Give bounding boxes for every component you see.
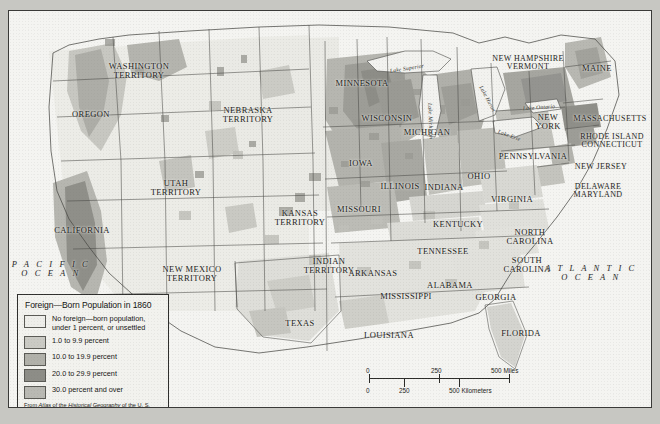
scale-miles-tick-250: 250 xyxy=(431,367,442,374)
legend-swatch-3 xyxy=(24,369,46,382)
scale-km-tick-0: 0 xyxy=(366,387,370,394)
map-legend[interactable]: Foreign—Born Population in 1860 No forei… xyxy=(17,294,169,407)
scale-tick-b xyxy=(439,374,440,383)
legend-row-2[interactable]: 10.0 to 19.9 percent xyxy=(24,352,162,366)
map-surface[interactable]: WASHINGTON TERRITORY OREGON CALIFORNIA U… xyxy=(9,11,651,407)
scale-tick-d xyxy=(404,378,405,387)
legend-label-0: No foreign—born population, under 1 perc… xyxy=(52,314,145,333)
legend-label-4: 30.0 percent and over xyxy=(52,385,123,394)
scale-km-row: 0 250 500 Kilometers xyxy=(361,387,541,398)
scale-miles-tick-0: 0 xyxy=(366,367,370,374)
scale-tick-e xyxy=(459,378,460,387)
legend-label-3: 20.0 to 29.9 percent xyxy=(52,369,117,378)
legend-source: From Atlas of the Historical Geography o… xyxy=(24,402,162,407)
legend-row-1[interactable]: 1.0 to 9.9 percent xyxy=(24,336,162,350)
scale-tick-a xyxy=(369,374,370,383)
legend-row-3[interactable]: 20.0 to 29.9 percent xyxy=(24,369,162,383)
scale-miles-row: 0 250 500 Miles xyxy=(361,367,541,378)
map-page: WASHINGTON TERRITORY OREGON CALIFORNIA U… xyxy=(0,0,660,424)
map-frame: WASHINGTON TERRITORY OREGON CALIFORNIA U… xyxy=(8,10,652,408)
scale-km-tick-250: 250 xyxy=(399,387,410,394)
source-mid: of the xyxy=(51,402,68,407)
legend-title: Foreign—Born Population in 1860 xyxy=(25,300,162,310)
source-suffix: of the U. S. xyxy=(120,402,150,407)
source-prefix: From xyxy=(24,402,39,407)
scale-miles-unit: 500 Miles xyxy=(491,367,518,374)
scale-tick-c xyxy=(509,374,510,383)
source-historical-geography: Historical Geography xyxy=(68,402,120,407)
scale-bar: 0 250 500 Miles 0 250 500 Kilometers xyxy=(361,367,541,398)
legend-swatch-0 xyxy=(24,315,46,328)
legend-row-4[interactable]: 30.0 percent and over xyxy=(24,385,162,399)
legend-swatch-1 xyxy=(24,336,46,349)
legend-label-1: 1.0 to 9.9 percent xyxy=(52,336,109,345)
source-atlas: Atlas xyxy=(39,402,51,407)
legend-swatch-2 xyxy=(24,353,46,366)
legend-label-2: 10.0 to 19.9 percent xyxy=(52,352,117,361)
legend-row-0[interactable]: No foreign—born population, under 1 perc… xyxy=(24,314,162,333)
scale-km-unit: 500 Kilometers xyxy=(449,387,492,394)
legend-swatch-4 xyxy=(24,386,46,399)
